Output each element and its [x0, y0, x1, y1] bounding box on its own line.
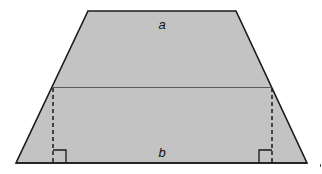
top-base-label: a [158, 17, 165, 32]
bottom-base-label: b [158, 145, 165, 160]
edge-artifact-mark [320, 164, 321, 167]
trapezoid-diagram: a b [0, 0, 322, 174]
